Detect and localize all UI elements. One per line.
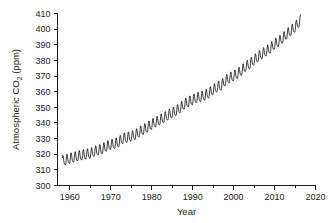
y-tick-label: 410 bbox=[35, 9, 50, 19]
y-tick-label: 300 bbox=[35, 181, 50, 191]
y-tick-label: 350 bbox=[35, 103, 50, 113]
y-tick-label: 400 bbox=[35, 24, 50, 34]
y-tick-label: 360 bbox=[35, 87, 50, 97]
x-tick-label: 2000 bbox=[224, 192, 244, 202]
y-tick-label: 390 bbox=[35, 40, 50, 50]
y-tick-label: 330 bbox=[35, 134, 50, 144]
x-tick-label: 2010 bbox=[265, 192, 285, 202]
y-tick-label: 320 bbox=[35, 149, 50, 159]
co2-chart-figure: 300310320330340350360370380390400410 196… bbox=[0, 0, 335, 223]
x-tick-label: 2020 bbox=[305, 192, 325, 202]
y-tick-label: 310 bbox=[35, 165, 50, 175]
y-axis-title-unit: (ppm) bbox=[10, 49, 21, 76]
y-tick-label: 370 bbox=[35, 71, 50, 81]
x-axis-title: Year bbox=[177, 206, 196, 217]
y-tick-label: 340 bbox=[35, 118, 50, 128]
y-axis-title: Atmospheric CO2 (ppm) bbox=[10, 49, 23, 150]
x-tick-label: 1980 bbox=[142, 192, 162, 202]
x-tick-label: 1960 bbox=[60, 192, 80, 202]
x-tick-label: 1970 bbox=[101, 192, 121, 202]
x-tick-label: 1990 bbox=[183, 192, 203, 202]
chart-svg: 300310320330340350360370380390400410 196… bbox=[0, 0, 335, 223]
y-axis-title-main: Atmospheric CO bbox=[10, 80, 21, 150]
y-tick-label: 380 bbox=[35, 56, 50, 66]
